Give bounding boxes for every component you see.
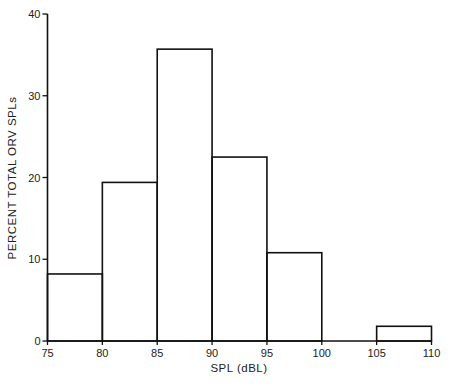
x-axis-ticks: 7580859095100105110 — [41, 341, 440, 359]
histogram-bar — [377, 326, 432, 341]
histogram-bar — [102, 182, 157, 341]
x-axis-label: SPL (dBL) — [210, 362, 267, 374]
x-tick-label: 95 — [261, 347, 273, 359]
y-axis-label: PERCENT TOTAL ORV SPLs — [6, 97, 18, 260]
x-tick-label: 75 — [41, 347, 53, 359]
x-tick-label: 105 — [367, 347, 385, 359]
histogram-bars — [48, 49, 432, 341]
y-tick-label: 0 — [34, 335, 40, 347]
histogram-bar — [267, 253, 322, 341]
x-tick-label: 90 — [206, 347, 218, 359]
y-tick-label: 30 — [28, 90, 40, 102]
x-tick-label: 80 — [96, 347, 108, 359]
x-tick-label: 85 — [151, 347, 163, 359]
y-axis-ticks: 010203040 — [28, 8, 47, 347]
y-tick-label: 20 — [28, 172, 40, 184]
x-tick-label: 110 — [423, 347, 441, 359]
histogram-chart: 010203040 7580859095100105110 SPL (dBL) … — [0, 0, 452, 388]
histogram-bar — [48, 274, 103, 341]
x-tick-label: 100 — [313, 347, 331, 359]
y-tick-label: 10 — [28, 253, 40, 265]
histogram-bar — [212, 157, 267, 341]
y-tick-label: 40 — [28, 8, 40, 20]
histogram-bar — [157, 49, 212, 341]
